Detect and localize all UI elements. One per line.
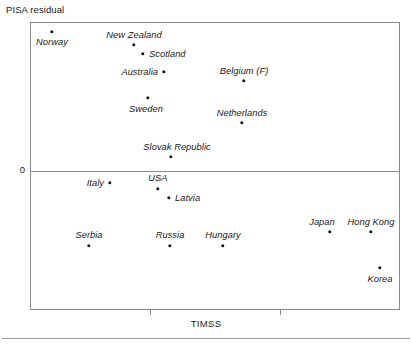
y-axis-tick-label-zero: 0 — [15, 164, 25, 175]
data-point-label: Slovak Republic — [143, 142, 210, 152]
x-axis-label: TIMSS — [0, 318, 412, 329]
data-point-label: Serbia — [75, 230, 102, 240]
data-point-label: Russia — [156, 230, 185, 240]
data-point-label: Norway — [36, 37, 68, 47]
data-point-label: USA — [148, 173, 167, 183]
plot-area — [30, 22, 400, 310]
data-point-label: Australia — [121, 67, 158, 77]
x-axis-tick — [150, 310, 151, 315]
scatter-chart-figure: PISA residual 0 NorwayNew ZealandScotlan… — [0, 0, 412, 347]
data-point-label: Scotland — [149, 49, 186, 59]
data-point-label: Belgium (F) — [220, 66, 269, 76]
data-point-label: Hong Kong — [348, 217, 395, 227]
figure-bottom-rule — [2, 338, 410, 339]
data-point-label: Sweden — [129, 104, 163, 114]
data-point-label: Korea — [367, 274, 392, 284]
zero-reference-line — [30, 171, 400, 172]
data-point-label: Latvia — [175, 193, 200, 203]
data-point-label: Hungary — [205, 230, 241, 240]
y-axis-label: PISA residual — [6, 4, 64, 15]
data-point-label: Italy — [87, 178, 104, 188]
data-point-label: Netherlands — [217, 108, 268, 118]
data-point-label: New Zealand — [106, 30, 161, 40]
x-axis-tick — [280, 310, 281, 315]
data-point-label: Japan — [309, 217, 335, 227]
